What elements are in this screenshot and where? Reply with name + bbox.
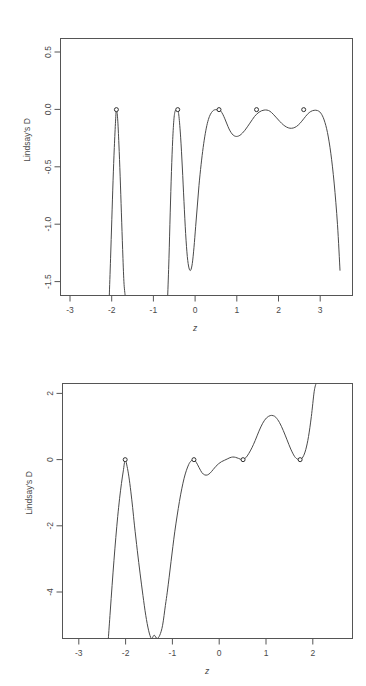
data-point-marker <box>302 108 306 112</box>
figure-page: -3 -2 -1 0 1 2 3 0.5 0.0 -0.5 -1.0 -1.5 … <box>0 0 366 686</box>
chart-panel-bottom: -3 -2 -1 0 1 2 2 0 -2 -4 z Lindsay's D <box>0 343 366 686</box>
data-curve <box>109 109 340 295</box>
x-tick-label: -2 <box>122 648 130 658</box>
x-axis-title: z <box>192 323 198 333</box>
y-tick-label: -1.0 <box>43 217 53 232</box>
data-point-marker <box>192 458 196 462</box>
top-plot-frame-group <box>61 39 353 296</box>
y-tick-label: 2 <box>45 391 55 396</box>
data-point-marker <box>217 108 221 112</box>
top-plot-yticks-group <box>55 52 61 282</box>
bottom-plot-xticks-group <box>79 639 313 645</box>
x-tick-label: 0 <box>217 648 222 658</box>
data-point-marker <box>255 108 259 112</box>
top-plot-xticks-group <box>70 296 320 302</box>
top-plot-data-group <box>109 108 340 296</box>
bottom-plot-frame-group <box>63 384 353 639</box>
top-plot-yticklabels-group: 0.5 0.0 -0.5 -1.0 -1.5 <box>43 46 53 289</box>
data-curve <box>108 384 316 639</box>
bottom-plot-xticklabels-group: -3 -2 -1 0 1 2 <box>75 648 315 658</box>
plot-frame <box>61 39 353 296</box>
data-markers-group <box>123 458 302 462</box>
data-markers-group <box>114 108 305 112</box>
x-tick-label: 2 <box>276 305 281 315</box>
x-axis-title: z <box>204 666 210 676</box>
y-axis-title: Lindsay's D <box>22 118 32 162</box>
y-tick-label: -1.5 <box>43 274 53 289</box>
y-tick-label: 0.5 <box>43 46 53 58</box>
y-tick-label: -4 <box>45 588 55 596</box>
y-axis-title: Lindsay's D <box>24 471 34 515</box>
x-tick-label: 3 <box>318 305 323 315</box>
x-tick-label: -2 <box>108 305 116 315</box>
bottom-plot-yticklabels-group: 2 0 -2 -4 <box>45 391 55 596</box>
x-tick-label: -1 <box>169 648 177 658</box>
bottom-plot-yticks-group <box>57 393 63 592</box>
y-tick-label: -0.5 <box>43 159 53 174</box>
top-plot-svg: -3 -2 -1 0 1 2 3 0.5 0.0 -0.5 -1.0 -1.5 … <box>0 0 366 343</box>
x-tick-label: -3 <box>75 648 83 658</box>
y-tick-label: 0 <box>45 457 55 462</box>
chart-panel-top: -3 -2 -1 0 1 2 3 0.5 0.0 -0.5 -1.0 -1.5 … <box>0 0 366 343</box>
data-point-marker <box>114 108 118 112</box>
x-tick-label: 2 <box>310 648 315 658</box>
plot-frame <box>63 384 353 639</box>
data-point-marker <box>241 458 245 462</box>
bottom-plot-svg: -3 -2 -1 0 1 2 2 0 -2 -4 z Lindsay's D <box>0 343 366 686</box>
x-tick-label: 1 <box>234 305 239 315</box>
x-tick-label: 0 <box>193 305 198 315</box>
data-point-marker <box>298 458 302 462</box>
x-tick-label: -1 <box>150 305 158 315</box>
data-point-marker <box>176 108 180 112</box>
y-tick-label: 0.0 <box>43 103 53 115</box>
data-point-marker <box>123 458 127 462</box>
x-tick-label: -3 <box>66 305 74 315</box>
bottom-plot-data-group <box>108 384 316 639</box>
x-tick-label: 1 <box>264 648 269 658</box>
top-plot-xticklabels-group: -3 -2 -1 0 1 2 3 <box>66 305 323 315</box>
y-tick-label: -2 <box>45 522 55 530</box>
